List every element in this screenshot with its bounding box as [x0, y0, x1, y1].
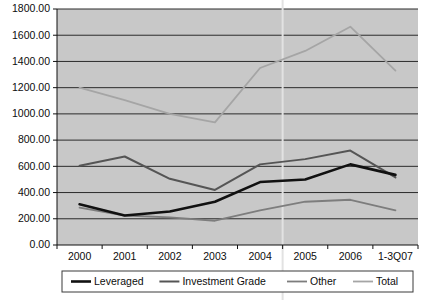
x-tick-label: 2006 [339, 250, 363, 262]
y-tick-label: 400.00 [18, 186, 50, 198]
y-tick-label: 0.00 [30, 238, 51, 250]
x-tick-label: 2005 [294, 250, 318, 262]
y-tick-label: 1200.00 [12, 81, 50, 93]
x-tick-label: 2002 [158, 250, 182, 262]
legend-label-leveraged: Leveraged [94, 275, 144, 287]
x-tick-label: 2000 [68, 250, 92, 262]
y-tick-label: 1400.00 [12, 55, 50, 67]
legend-label-total: Total [376, 275, 398, 287]
chart-legend: LeveragedInvestment GradeOtherTotal [62, 271, 413, 292]
legend-label-other: Other [310, 275, 337, 287]
line-chart: 0.00200.00400.00600.00800.001000.001200.… [0, 0, 432, 300]
y-tick-label: 800.00 [18, 133, 50, 145]
y-tick-label: 1800.00 [12, 2, 50, 14]
chart-canvas: 0.00200.00400.00600.00800.001000.001200.… [0, 0, 432, 300]
x-tick-label: 2003 [203, 250, 227, 262]
y-tick-label: 600.00 [18, 160, 50, 172]
y-tick-label: 1000.00 [12, 107, 50, 119]
y-tick-label: 200.00 [18, 212, 50, 224]
plot-area-background [57, 9, 418, 245]
x-tick-label: 1-3Q07 [378, 250, 413, 262]
x-tick-label: 2001 [113, 250, 137, 262]
x-tick-label: 2004 [248, 250, 272, 262]
y-tick-label: 1600.00 [12, 29, 50, 41]
legend-label-investment-grade: Investment Grade [182, 275, 266, 287]
